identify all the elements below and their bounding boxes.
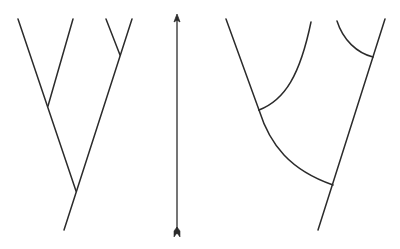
curved-tree-branch-4 <box>318 19 385 230</box>
curved-tree-branch-1 <box>226 19 259 110</box>
curved-tree-branch-2 <box>259 110 333 185</box>
curved-branching-tree <box>226 19 385 230</box>
gradual-tree-branch-1 <box>18 19 76 191</box>
gradual-branching-tree <box>18 19 132 230</box>
gradual-tree-branch-3 <box>64 19 132 230</box>
time-arrow-icon <box>174 14 180 237</box>
curved-tree-branch-5 <box>337 21 373 57</box>
arrow-fletching-icon <box>174 227 180 237</box>
gradual-tree-branch-4 <box>106 19 120 55</box>
diagram-canvas <box>0 0 400 249</box>
gradual-tree-branch-2 <box>48 19 73 106</box>
diagram-svg <box>0 0 400 249</box>
curved-tree-branch-3 <box>259 22 311 110</box>
